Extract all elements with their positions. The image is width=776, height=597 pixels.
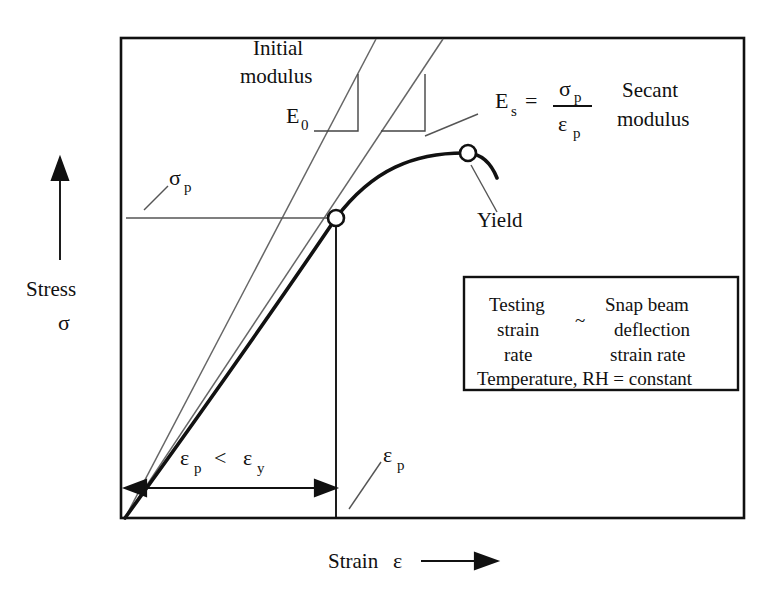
condition-right-line1: Snap beam bbox=[605, 294, 689, 315]
condition-left-line3: rate bbox=[504, 344, 532, 365]
epsilon-p-subscript: p bbox=[397, 457, 405, 473]
secant-modulus-label-line2: modulus bbox=[617, 107, 689, 131]
condition-bottom-line: Temperature, RH = constant bbox=[477, 368, 693, 389]
sigma-p-leader-line bbox=[144, 186, 168, 210]
condition-left-line2: strain bbox=[497, 319, 540, 340]
strain-axis-symbol: ε bbox=[393, 548, 402, 573]
stress-axis-symbol: σ bbox=[58, 310, 70, 335]
condition-relation-symbol: ~ bbox=[575, 310, 585, 331]
secant-equation-lhs-subscript: s bbox=[511, 103, 517, 119]
secant-equation-leader-line bbox=[425, 114, 478, 136]
secant-equation-numerator-subscript: p bbox=[574, 89, 582, 105]
secant-equation-numerator: σ bbox=[559, 76, 571, 101]
initial-modulus-label-line1: Initial bbox=[253, 36, 303, 60]
secant-equation-denominator: ε bbox=[558, 111, 567, 136]
initial-modulus-slope-triangle bbox=[314, 74, 358, 131]
proportional-limit-marker bbox=[328, 210, 344, 226]
yield-point-marker bbox=[460, 145, 476, 161]
epsilon-p-leader-line bbox=[349, 462, 381, 509]
inequality-left-symbol: ε bbox=[180, 445, 189, 470]
secant-equation-denominator-subscript: p bbox=[573, 125, 581, 141]
initial-modulus-symbol: E bbox=[286, 103, 299, 128]
yield-label: Yield bbox=[477, 208, 523, 232]
secant-line bbox=[125, 39, 443, 518]
secant-modulus-label-line1: Secant bbox=[622, 78, 678, 102]
initial-modulus-subscript: 0 bbox=[301, 117, 309, 133]
stress-strain-diagram: Initial modulus E 0 E s = σ p ε p Secant… bbox=[0, 0, 776, 597]
condition-right-line3: strain rate bbox=[610, 344, 685, 365]
inequality-right-symbol: ε bbox=[243, 445, 252, 470]
strain-axis-arrow-head bbox=[475, 553, 497, 569]
epsilon-p-symbol: ε bbox=[383, 442, 392, 467]
inequality-operator: < bbox=[214, 445, 226, 470]
initial-modulus-label-line2: modulus bbox=[240, 64, 312, 88]
inequality-left-subscript: p bbox=[194, 460, 202, 476]
secant-equation-equals: = bbox=[525, 88, 537, 113]
secant-equation-lhs: E bbox=[495, 88, 508, 113]
stress-axis-label: Stress bbox=[26, 277, 76, 301]
inequality-right-subscript: y bbox=[257, 460, 265, 476]
sigma-p-symbol: σ bbox=[169, 165, 181, 190]
strain-axis-label: Strain bbox=[328, 549, 379, 573]
epsilon-p-span-arrow-right bbox=[315, 480, 336, 496]
sigma-p-subscript: p bbox=[184, 179, 192, 195]
stress-axis-arrow-head bbox=[52, 158, 68, 180]
epsilon-p-span-arrow-left bbox=[125, 480, 146, 496]
stress-strain-figure: Initial modulus E 0 E s = σ p ε p Secant… bbox=[0, 0, 776, 597]
condition-left-line1: Testing bbox=[489, 294, 545, 315]
condition-right-line2: deflection bbox=[614, 319, 690, 340]
